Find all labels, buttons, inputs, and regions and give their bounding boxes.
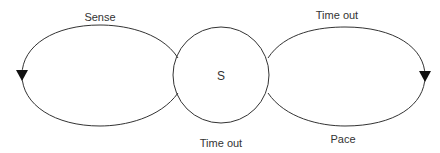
state-diagram: S Sense Time out Pace Time out: [0, 0, 440, 153]
left-arrowhead-icon: [16, 70, 28, 81]
left-loop-path: [22, 25, 178, 126]
state-label: S: [217, 69, 225, 83]
left-loop: [16, 25, 178, 126]
right-loop-path: [268, 27, 425, 126]
right-arrowhead-icon: [419, 71, 431, 82]
right-loop-bottom-label: Pace: [330, 133, 355, 145]
left-loop-top-label: Sense: [84, 11, 115, 23]
center-bottom-label: Time out: [200, 137, 242, 149]
right-loop: [268, 27, 431, 126]
right-loop-top-label: Time out: [316, 9, 358, 21]
